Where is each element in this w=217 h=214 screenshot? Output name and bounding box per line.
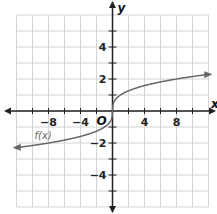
x-tick-label: −4: [72, 116, 89, 129]
x-tick-label: 8: [173, 116, 181, 129]
y-axis-up-arrow-icon: [109, 1, 116, 8]
y-axis-down-arrow-icon: [109, 206, 116, 213]
y-tick-label: 4: [99, 41, 107, 54]
x-axis-label: x: [210, 97, 217, 111]
y-axis-label: y: [118, 1, 127, 15]
x-tick-label: 4: [141, 116, 149, 129]
coordinate-plane: −8−44842−2−4Oyxf(x): [0, 0, 217, 214]
x-tick-label: −8: [40, 116, 57, 129]
function-label: f(x): [35, 130, 52, 141]
y-tick-label: −2: [90, 137, 107, 150]
y-tick-label: −4: [90, 169, 107, 182]
x-axis-left-arrow-icon: [4, 108, 11, 115]
y-tick-label: 2: [99, 73, 107, 86]
